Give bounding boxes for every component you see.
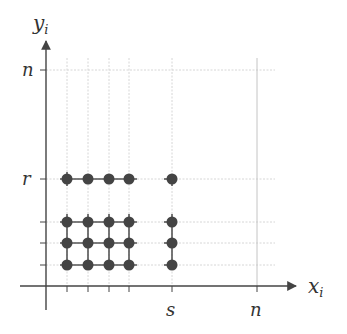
ticks xyxy=(40,70,257,292)
y-tick-label-r: r xyxy=(22,168,32,189)
axes xyxy=(20,41,296,310)
point xyxy=(104,260,115,271)
point xyxy=(83,260,94,271)
point xyxy=(167,217,178,228)
point xyxy=(62,174,73,185)
point xyxy=(83,238,94,249)
x-tick-label-n: n xyxy=(250,299,262,320)
point xyxy=(167,174,178,185)
point xyxy=(62,260,73,271)
x-axis-label: xi xyxy=(308,274,323,300)
point xyxy=(62,238,73,249)
point xyxy=(124,260,135,271)
lattice-edges xyxy=(60,172,172,265)
point xyxy=(104,174,115,185)
point xyxy=(83,174,94,185)
point xyxy=(167,260,178,271)
point xyxy=(167,238,178,249)
point xyxy=(104,217,115,228)
point xyxy=(124,217,135,228)
y-tick-label-n: n xyxy=(22,59,34,80)
y-axis-label: yi xyxy=(32,11,48,37)
labels: yi xi n r s n xyxy=(22,11,323,320)
x-tick-label-s: s xyxy=(166,299,175,320)
point xyxy=(124,238,135,249)
point xyxy=(83,217,94,228)
point xyxy=(104,238,115,249)
point xyxy=(124,174,135,185)
grid xyxy=(46,58,275,286)
point xyxy=(62,217,73,228)
lattice-diagram: yi xi n r s n xyxy=(0,0,347,334)
